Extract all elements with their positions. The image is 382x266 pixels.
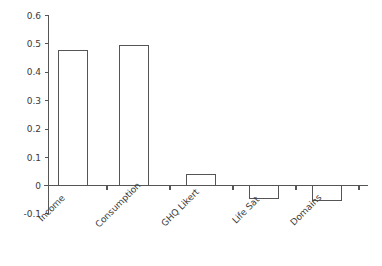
bar-income[interactable] xyxy=(58,50,87,185)
bar-chart-figure: 0.6 0.5 0.4 0.3 0.2 0.1 0 -0.1 Income Co… xyxy=(0,0,382,266)
y-tick-label-0.5: 0.5 xyxy=(27,39,41,49)
y-tick-label-0.2: 0.2 xyxy=(27,124,41,134)
y-tick-label-0: 0 xyxy=(35,181,41,191)
chart-background xyxy=(0,0,382,266)
y-tick-label-0.4: 0.4 xyxy=(27,67,42,77)
y-tick-label-0.3: 0.3 xyxy=(27,96,41,106)
bar-ghq-likert[interactable] xyxy=(187,174,216,185)
y-tick-label-0.1: 0.1 xyxy=(27,153,41,163)
chart-canvas: 0.6 0.5 0.4 0.3 0.2 0.1 0 -0.1 Income Co… xyxy=(0,0,382,266)
y-tick-label-0.6: 0.6 xyxy=(27,11,42,21)
bar-consumption[interactable] xyxy=(120,46,149,186)
